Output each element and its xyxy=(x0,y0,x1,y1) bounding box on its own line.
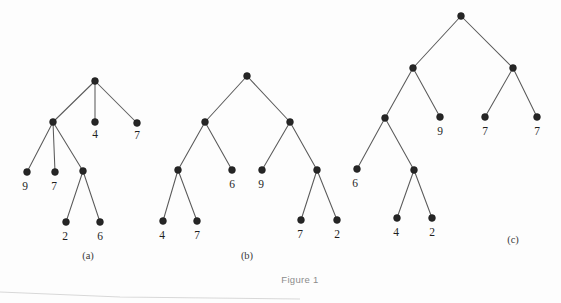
leaf-value-label: 4 xyxy=(393,226,399,238)
tree-internal-node xyxy=(50,119,57,126)
tree-leaf-node xyxy=(334,217,341,224)
leaf-value-label: 6 xyxy=(352,177,358,189)
tree-internal-node xyxy=(314,167,321,174)
tree-internal-node xyxy=(510,65,517,72)
tree-leaf-node xyxy=(429,215,436,222)
tree-leaf-node xyxy=(97,219,104,226)
leaf-value-label: 9 xyxy=(258,178,264,190)
tree-leaf-node xyxy=(298,217,305,224)
tree-internal-node xyxy=(382,115,389,122)
figure-canvas: 479726(a)694772(b)977642(c) Figure 1 xyxy=(0,0,561,303)
tree-leaf-node xyxy=(160,218,167,225)
tree-leaf-node xyxy=(394,215,401,222)
leaf-value-label: 4 xyxy=(159,229,165,241)
tree-leaf-node xyxy=(354,166,361,173)
figure-caption: Figure 1 xyxy=(281,274,318,285)
leaf-value-label: 9 xyxy=(437,125,443,137)
leaf-value-label: 7 xyxy=(134,129,140,141)
leaf-value-label: 7 xyxy=(534,125,540,137)
tree-leaf-node xyxy=(63,219,70,226)
tree-leaf-node xyxy=(92,119,99,126)
figure-container: 479726(a)694772(b)977642(c) Figure 1 xyxy=(0,0,561,303)
tree-leaf-node xyxy=(194,218,201,225)
leaf-value-label: 2 xyxy=(334,228,340,240)
tree-internal-node xyxy=(458,13,465,20)
tree-a-sublabel: (a) xyxy=(82,250,94,262)
leaf-value-label: 4 xyxy=(92,128,98,140)
leaf-value-label: 7 xyxy=(194,229,200,241)
captions-layer: Figure 1 xyxy=(281,274,318,285)
tree-leaf-node xyxy=(437,114,444,121)
leaf-value-label: 2 xyxy=(429,226,435,238)
tree-leaf-node xyxy=(134,120,141,127)
tree-leaf-node xyxy=(229,167,236,174)
tree-internal-node xyxy=(410,65,417,72)
leaf-value-label: 7 xyxy=(51,180,57,192)
leaf-value-label: 9 xyxy=(22,180,28,192)
tree-internal-node xyxy=(411,167,418,174)
leaf-value-label: 7 xyxy=(482,125,488,137)
tree-b-sublabel: (b) xyxy=(241,250,254,262)
tree-internal-node xyxy=(92,78,99,85)
leaf-value-label: 7 xyxy=(297,228,303,240)
tree-internal-node xyxy=(175,167,182,174)
tree-leaf-node xyxy=(482,114,489,121)
tree-internal-node xyxy=(80,168,87,175)
tree-internal-node xyxy=(202,119,209,126)
tree-c-sublabel: (c) xyxy=(507,234,519,246)
leaf-value-label: 6 xyxy=(97,230,103,242)
leaf-value-label: 2 xyxy=(62,230,68,242)
tree-internal-node xyxy=(244,73,251,80)
tree-leaf-node xyxy=(24,169,31,176)
tree-leaf-node xyxy=(52,169,59,176)
tree-internal-node xyxy=(287,119,294,126)
tree-leaf-node xyxy=(259,167,266,174)
tree-leaf-node xyxy=(534,114,541,121)
leaf-value-label: 6 xyxy=(229,178,235,190)
